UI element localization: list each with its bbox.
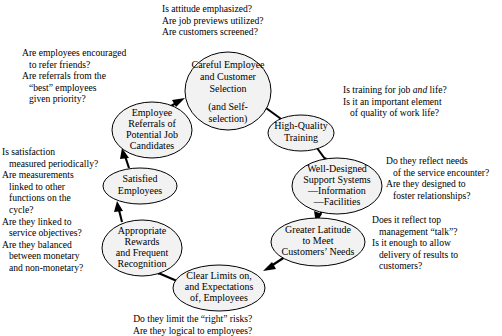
annotation-support-line-3: foster relationships? [386, 190, 489, 202]
annotation-referrals: Are employees encouraged to refer friend… [22, 47, 126, 105]
annotation-selection-line-1: Are job previews utilized? [162, 15, 264, 27]
annotation-rewards: Is satisfaction measured periodically? A… [2, 146, 98, 274]
node-high-quality-training[interactable]: High-Quality Training [268, 115, 334, 151]
node-satisfied-employees-line-0: Satisfied [123, 173, 158, 184]
annotation-latitude: Does it reflect top management “talk”? I… [372, 214, 458, 272]
node-employee-referrals-line-3: Candidates [130, 140, 175, 151]
node-appropriate-rewards-line-0: Appropriate [118, 225, 167, 236]
annotation-support-line-2: Are they designed to [386, 178, 489, 190]
node-clear-limits-line-2: of, Employees [190, 292, 248, 303]
annotation-rewards-line-5: cycle? [2, 204, 98, 216]
node-appropriate-rewards-line-1: Rewards [125, 236, 160, 247]
annotation-referrals-line-1: to refer friends? [22, 59, 126, 71]
annotation-rewards-line-6: Are they linked to [2, 216, 98, 228]
annotation-rewards-line-4: functions on the [2, 192, 98, 204]
annotation-latitude-line-3: delivery of results to [372, 249, 458, 261]
annotation-training-line-1: Is it an important element [343, 96, 447, 108]
annotation-latitude-line-2: Is it enough to allow [372, 237, 458, 249]
node-appropriate-rewards[interactable]: Appropriate Rewards and Frequent Recogni… [102, 220, 182, 276]
node-clear-limits[interactable]: Clear Limits on, and Expectations of, Em… [173, 265, 265, 311]
node-support-systems[interactable]: Well-Designed Support Systems —Informati… [292, 158, 382, 214]
arrow-rewards-to-satisfied [114, 201, 123, 222]
annotation-rewards-line-9: between monetary [2, 250, 98, 262]
annotation-limits-line-0: Do they limit the “right” risks? [133, 313, 252, 325]
annotation-referrals-line-0: Are employees encouraged [22, 47, 126, 59]
emphasis-and: and [413, 84, 427, 95]
node-support-systems-line-1: Support Systems [303, 174, 371, 185]
node-careful-selection[interactable]: Careful Employee and Customer Selection … [185, 52, 271, 130]
annotation-limits: Do they limit the “right” risks? Are the… [133, 313, 252, 336]
annotation-limits-line-1: Are they logical to employees? [133, 325, 252, 336]
annotation-rewards-line-10: and non-monetary? [2, 262, 98, 274]
annotation-rewards-line-0: Is satisfaction [2, 146, 98, 158]
annotation-training: Is training for job and life? Is it an i… [343, 84, 447, 119]
node-employee-referrals[interactable]: Employee Referrals of Potential Job Cand… [112, 102, 192, 158]
annotation-selection-line-2: Are customers screened? [162, 26, 264, 38]
annotation-support-line-1: of the service encounter? [386, 167, 489, 179]
node-support-systems-line-2: —Information [307, 185, 366, 196]
annotation-selection-line-0: Is attitude emphasized? [162, 3, 264, 15]
annotation-latitude-line-1: management “talk”? [372, 226, 458, 238]
node-support-systems-line-0: Well-Designed [307, 163, 367, 174]
node-greater-latitude-line-1: to Meet [303, 235, 334, 246]
annotation-support: Do they reflect needs of the service enc… [386, 155, 489, 201]
node-greater-latitude-line-2: Customers’ Needs [282, 246, 355, 257]
node-support-systems-line-3: —Facilities [313, 196, 361, 207]
node-greater-latitude-line-0: Greater Latitude [285, 224, 351, 235]
annotation-training-line-0: Is training for job and life? [343, 84, 447, 96]
node-careful-selection-line-5: selection) [209, 113, 248, 125]
node-careful-selection-line-2: Selection [209, 83, 246, 94]
node-careful-selection-line-4: (and Self- [208, 101, 248, 113]
annotation-support-line-0: Do they reflect needs [386, 155, 489, 167]
annotation-latitude-line-0: Does it reflect top [372, 214, 458, 226]
node-clear-limits-line-0: Clear Limits on, [186, 270, 251, 281]
annotation-rewards-line-3: linked to other [2, 181, 98, 193]
annotation-rewards-line-2: Are measurements [2, 169, 98, 181]
node-careful-selection-line-1: and Customer [200, 71, 256, 82]
node-satisfied-employees[interactable]: Satisfied Employees [103, 168, 177, 204]
node-employee-referrals-line-1: Referrals of [128, 118, 176, 129]
node-satisfied-employees-line-1: Employees [118, 185, 163, 196]
node-high-quality-training-line-1: Training [284, 132, 318, 143]
annotation-referrals-line-2: Are referrals from the [22, 70, 126, 82]
node-high-quality-training-line-0: High-Quality [274, 120, 327, 131]
node-clear-limits-line-1: and Expectations [185, 281, 254, 292]
annotation-rewards-line-1: measured periodically? [2, 158, 98, 170]
node-appropriate-rewards-line-2: and Frequent [116, 247, 169, 258]
annotation-referrals-line-3: “best” employees [22, 82, 126, 94]
annotation-latitude-line-4: customers? [372, 260, 458, 272]
annotation-rewards-line-8: Are they balanced [2, 239, 98, 251]
annotation-rewards-line-7: service objectives? [2, 227, 98, 239]
annotation-referrals-line-4: given priority? [22, 93, 126, 105]
node-careful-selection-line-0: Careful Employee [191, 59, 265, 70]
node-employee-referrals-line-0: Employee [132, 107, 173, 118]
annotation-selection: Is attitude emphasized? Are job previews… [162, 3, 264, 38]
annotation-training-line-2: of quality of work life? [343, 107, 447, 119]
node-appropriate-rewards-line-3: Recognition [118, 258, 167, 269]
node-greater-latitude[interactable]: Greater Latitude to Meet Customers’ Need… [271, 218, 365, 266]
node-employee-referrals-line-2: Potential Job [126, 129, 178, 140]
